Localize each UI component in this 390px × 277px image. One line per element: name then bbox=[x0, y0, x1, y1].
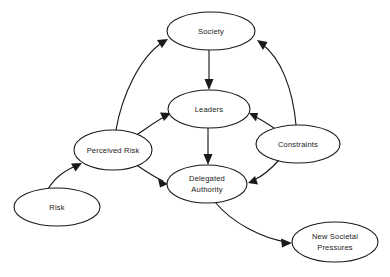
node-label-new-societal-pressures-line2: Pressures bbox=[317, 243, 353, 252]
node-constraints[interactable]: Constraints bbox=[256, 125, 340, 163]
node-leaders[interactable]: Leaders bbox=[168, 90, 250, 128]
edge-path-constraints-to-leaders bbox=[254, 116, 277, 130]
edge-constraints-to-society bbox=[257, 40, 296, 125]
node-label-risk: Risk bbox=[49, 203, 64, 212]
arrow-head-leaders-to-delegated-authority bbox=[204, 154, 213, 165]
edge-perceived-risk-to-delegated-authority bbox=[135, 164, 168, 188]
edge-leaders-to-delegated-authority bbox=[204, 128, 213, 165]
diagram-canvas: Society Leaders Perceived Risk Constrain… bbox=[0, 0, 390, 277]
edge-path-perceived-risk-to-leaders bbox=[135, 116, 166, 136]
node-label-delegated-authority-line2: Authority bbox=[191, 185, 222, 194]
node-label-perceived-risk: Perceived Risk bbox=[87, 146, 140, 155]
arrow-head-perceived-risk-to-society bbox=[157, 39, 168, 48]
node-shape-new-societal-pressures[interactable] bbox=[292, 222, 378, 262]
edge-path-constraints-to-delegated-authority bbox=[254, 159, 280, 180]
edge-path-constraints-to-society bbox=[262, 44, 296, 125]
node-label-delegated-authority-line1: Delegated bbox=[189, 174, 225, 183]
edge-path-delegated-authority-to-new-societal-pressures bbox=[215, 202, 286, 242]
node-new-societal-pressures[interactable]: New Societal Pressures bbox=[292, 222, 378, 262]
node-perceived-risk[interactable]: Perceived Risk bbox=[74, 130, 152, 170]
arrow-head-constraints-to-society bbox=[257, 40, 268, 50]
node-society[interactable]: Society bbox=[167, 12, 255, 50]
edge-constraints-to-leaders bbox=[249, 113, 277, 130]
edge-perceived-risk-to-society bbox=[116, 39, 168, 130]
risk-governance-diagram: Society Leaders Perceived Risk Constrain… bbox=[0, 0, 390, 277]
edge-path-perceived-risk-to-society bbox=[116, 42, 163, 130]
node-risk[interactable]: Risk bbox=[14, 188, 100, 226]
arrow-head-delegated-authority-to-new-societal-pressures bbox=[281, 239, 292, 248]
node-label-new-societal-pressures-line1: New Societal bbox=[312, 232, 358, 241]
edge-delegated-authority-to-new-societal-pressures bbox=[215, 202, 292, 248]
node-delegated-authority[interactable]: Delegated Authority bbox=[167, 165, 247, 203]
node-label-society: Society bbox=[198, 27, 224, 36]
edge-constraints-to-delegated-authority bbox=[248, 159, 280, 185]
arrow-head-constraints-to-delegated-authority bbox=[248, 176, 258, 185]
node-label-constraints: Constraints bbox=[278, 140, 318, 149]
edge-perceived-risk-to-leaders bbox=[135, 113, 171, 137]
arrow-head-constraints-to-leaders bbox=[249, 113, 258, 122]
edge-path-perceived-risk-to-delegated-authority bbox=[135, 164, 163, 181]
node-shape-delegated-authority[interactable] bbox=[167, 165, 247, 203]
arrow-head-society-to-leaders bbox=[205, 79, 214, 90]
edge-risk-to-perceived-risk bbox=[48, 163, 82, 189]
node-label-leaders: Leaders bbox=[195, 105, 224, 114]
edge-path-risk-to-perceived-risk bbox=[48, 165, 78, 189]
edge-society-to-leaders bbox=[205, 50, 214, 90]
